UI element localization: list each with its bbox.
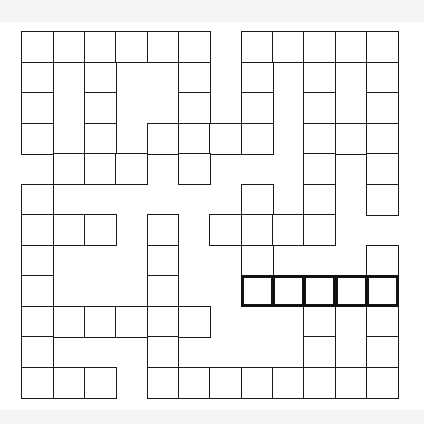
grid-cell[interactable]	[21, 92, 54, 124]
grid-cell[interactable]	[303, 92, 336, 124]
grid-cell[interactable]	[366, 336, 399, 368]
grid-cell[interactable]	[21, 123, 54, 155]
grid-cell[interactable]	[21, 184, 54, 216]
grid-cell[interactable]	[84, 31, 117, 63]
grid-cell[interactable]	[241, 367, 274, 399]
grid-cell[interactable]	[178, 123, 211, 155]
bottom-bar	[0, 410, 424, 424]
highlighted-cell[interactable]	[303, 275, 336, 307]
grid-cell[interactable]	[84, 123, 117, 155]
grid-cell[interactable]	[178, 92, 211, 124]
grid-cell[interactable]	[147, 336, 180, 368]
grid-cell[interactable]	[178, 31, 211, 63]
grid-cell[interactable]	[53, 306, 86, 338]
grid-cell[interactable]	[21, 336, 54, 368]
grid-cell[interactable]	[241, 31, 274, 63]
grid-cell[interactable]	[115, 31, 148, 63]
grid-cell[interactable]	[84, 92, 117, 124]
grid-cell[interactable]	[241, 62, 274, 94]
grid-cell[interactable]	[335, 123, 368, 155]
grid-cell[interactable]	[366, 31, 399, 63]
grid-cell[interactable]	[21, 306, 54, 338]
grid-cell[interactable]	[178, 306, 211, 338]
grid-cell[interactable]	[209, 123, 242, 155]
grid-cell[interactable]	[209, 214, 242, 246]
grid-cell[interactable]	[53, 153, 86, 185]
grid-cell[interactable]	[303, 62, 336, 94]
grid-cell[interactable]	[147, 31, 180, 63]
grid-cell[interactable]	[53, 31, 86, 63]
grid-cell[interactable]	[115, 153, 148, 185]
grid-cell[interactable]	[84, 367, 117, 399]
grid-cell[interactable]	[303, 184, 336, 216]
grid-cell[interactable]	[84, 214, 117, 246]
grid-cell[interactable]	[21, 245, 54, 277]
highlighted-cell[interactable]	[272, 275, 305, 307]
grid-cell[interactable]	[21, 214, 54, 246]
grid-cell[interactable]	[335, 31, 368, 63]
grid-cell[interactable]	[84, 62, 117, 94]
grid-cell[interactable]	[303, 367, 336, 399]
grid-cell[interactable]	[366, 123, 399, 155]
grid-cell[interactable]	[366, 306, 399, 338]
grid-cell[interactable]	[21, 31, 54, 63]
grid-cell[interactable]	[147, 275, 180, 307]
grid-cell[interactable]	[335, 367, 368, 399]
crossword-grid	[22, 32, 398, 398]
grid-cell[interactable]	[84, 153, 117, 185]
grid-cell[interactable]	[147, 306, 180, 338]
grid-cell[interactable]	[366, 153, 399, 185]
grid-cell[interactable]	[178, 367, 211, 399]
highlighted-cell[interactable]	[335, 275, 368, 307]
highlighted-cell[interactable]	[241, 275, 274, 307]
grid-cell[interactable]	[147, 367, 180, 399]
grid-cell[interactable]	[303, 153, 336, 185]
grid-cell[interactable]	[272, 31, 305, 63]
grid-cell[interactable]	[366, 62, 399, 94]
grid-cell[interactable]	[241, 245, 274, 277]
grid-cell[interactable]	[115, 306, 148, 338]
grid-cell[interactable]	[21, 367, 54, 399]
grid-cell[interactable]	[21, 275, 54, 307]
grid-cell[interactable]	[241, 123, 274, 155]
grid-cell[interactable]	[84, 306, 117, 338]
grid-cell[interactable]	[303, 31, 336, 63]
grid-cell[interactable]	[147, 123, 180, 155]
grid-cell[interactable]	[178, 153, 211, 185]
grid-cell[interactable]	[21, 62, 54, 94]
top-bar	[0, 0, 424, 22]
grid-cell[interactable]	[303, 214, 336, 246]
grid-cell[interactable]	[178, 62, 211, 94]
highlighted-cell[interactable]	[366, 275, 399, 307]
grid-cell[interactable]	[209, 367, 242, 399]
grid-cell[interactable]	[272, 367, 305, 399]
grid-cell[interactable]	[53, 214, 86, 246]
grid-cell[interactable]	[303, 123, 336, 155]
grid-cell[interactable]	[366, 92, 399, 124]
grid-cell[interactable]	[241, 92, 274, 124]
grid-cell[interactable]	[147, 214, 180, 246]
grid-cell[interactable]	[53, 367, 86, 399]
grid-cell[interactable]	[147, 245, 180, 277]
grid-cell[interactable]	[366, 245, 399, 277]
grid-cell[interactable]	[241, 184, 274, 216]
grid-cell[interactable]	[366, 367, 399, 399]
grid-cell[interactable]	[272, 214, 305, 246]
grid-cell[interactable]	[303, 306, 336, 338]
grid-cell[interactable]	[241, 214, 274, 246]
grid-cell[interactable]	[366, 184, 399, 216]
grid-cell[interactable]	[303, 336, 336, 368]
